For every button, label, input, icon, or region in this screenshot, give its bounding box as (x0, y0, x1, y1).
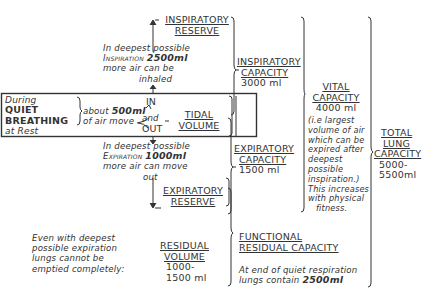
vital-note-line: fitness. (308, 204, 370, 214)
tlc-title-1: TOTAL (374, 128, 444, 139)
inspiratory-note-word: Inspiration (103, 53, 144, 63)
in-label: IN (146, 97, 156, 108)
inspiratory-capacity-title-1: INSPIRATORY (237, 57, 303, 68)
residual-volume-note: Even with deepest possible expiration lu… (32, 233, 152, 274)
vital-capacity-value: 4000 ml (304, 103, 368, 114)
inspiratory-note-line-4: inhaled (103, 74, 233, 84)
about-text: about (83, 106, 109, 116)
expiratory-reserve-amount: 1000ml (145, 150, 186, 161)
quiet-line-3: BREATHING (5, 116, 77, 127)
expiratory-note-line-4: out (103, 172, 233, 182)
inspiratory-capacity-value: 3000 ml (237, 78, 303, 89)
inspiratory-reserve-title-1: INSPIRATORY (162, 15, 232, 26)
residual-note-line: emptied completely: (32, 264, 152, 274)
expiratory-capacity-title-1: EXPIRATORY (234, 144, 300, 155)
total-lung-capacity-label: TOTAL LUNG CAPACITY 5000- 5500ml (374, 128, 444, 181)
quiet-breathing-label: During QUIET BREATHING at Rest (5, 95, 77, 136)
inspiratory-capacity-label: INSPIRATORY CAPACITY 3000 ml (237, 57, 303, 89)
and-label: and (142, 113, 159, 123)
residual-note-line: possible expiration (32, 243, 152, 253)
inspiratory-note-line-3: more air can be (103, 63, 233, 73)
residual-volume-label: RESIDUAL VOLUME 1000- 1500 ml (160, 241, 220, 283)
quiet-line-2: QUIET (5, 105, 77, 116)
inspiratory-reserve-amount: 2500ml (147, 52, 188, 63)
expiratory-reserve-title-1: EXPIRATORY (160, 186, 226, 197)
tlc-value-2: 5500ml (374, 170, 444, 181)
frc-note-text: lungs contain (239, 275, 299, 285)
out-label: OUT (142, 124, 162, 135)
inspiratory-reserve-note: In deepest possible Inspiration 2500ml m… (103, 43, 233, 84)
residual-note-line: Even with deepest (32, 233, 152, 243)
expiratory-reserve-title-2: RESERVE (160, 197, 226, 208)
expiratory-capacity-label: EXPIRATORY CAPACITY 1500 ml (234, 144, 300, 176)
frc-title-2: RESIDUAL CAPACITY (239, 243, 369, 254)
inspiratory-reserve-label: INSPIRATORY RESERVE (162, 15, 232, 36)
expiratory-capacity-value: 1500 ml (234, 165, 300, 176)
expiratory-note-line-3: more air can move (103, 161, 233, 171)
quiet-line-4: at Rest (5, 126, 77, 136)
expiratory-reserve-note: In deepest possible Expiration 1000ml mo… (103, 141, 233, 182)
residual-volume-value-1: 1000- (160, 262, 220, 273)
frc-title-1: FUNCTIONAL (239, 232, 369, 243)
inspiratory-reserve-title-2: RESERVE (162, 26, 232, 37)
tidal-volume-line-2: VOLUME (170, 121, 228, 132)
frc-note: At end of quiet respiration lungs contai… (239, 265, 374, 285)
residual-note-line: lungs cannot be (32, 253, 152, 263)
expiratory-reserve-label: EXPIRATORY RESERVE (160, 186, 226, 207)
tlc-title-3: CAPACITY (374, 149, 444, 160)
frc-label: FUNCTIONAL RESIDUAL CAPACITY (239, 232, 369, 253)
vital-capacity-title-1: VITAL (304, 82, 368, 93)
vital-capacity-note: (i.e largest volume of air which can be … (308, 116, 370, 214)
frc-amount: 2500ml (302, 274, 343, 285)
tidal-volume-line-1: TIDAL (170, 110, 228, 121)
tidal-amount: 500ml (112, 105, 146, 116)
expiratory-note-word: Expiration (103, 151, 142, 161)
residual-volume-title-1: RESIDUAL (160, 241, 220, 252)
tidal-volume-label: TIDAL VOLUME (170, 110, 228, 131)
residual-volume-value-2: 1500 ml (160, 273, 220, 284)
vital-capacity-label: VITAL CAPACITY 4000 ml (304, 82, 368, 114)
